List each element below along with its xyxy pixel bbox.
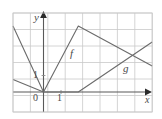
curve-label-f: f — [70, 48, 73, 59]
x-unit-tick-label: 1 — [57, 93, 62, 103]
origin-label: 0 — [33, 93, 38, 103]
x-axis-label: x — [145, 95, 149, 105]
graph-plot — [0, 0, 162, 119]
figure-canvas: y x f g 1 0 1 — [0, 0, 162, 119]
y-axis-arrow — [40, 11, 47, 18]
y-unit-tick-label: 1 — [33, 70, 38, 80]
curve-label-g: g — [123, 63, 129, 74]
y-axis-label: y — [34, 12, 39, 23]
